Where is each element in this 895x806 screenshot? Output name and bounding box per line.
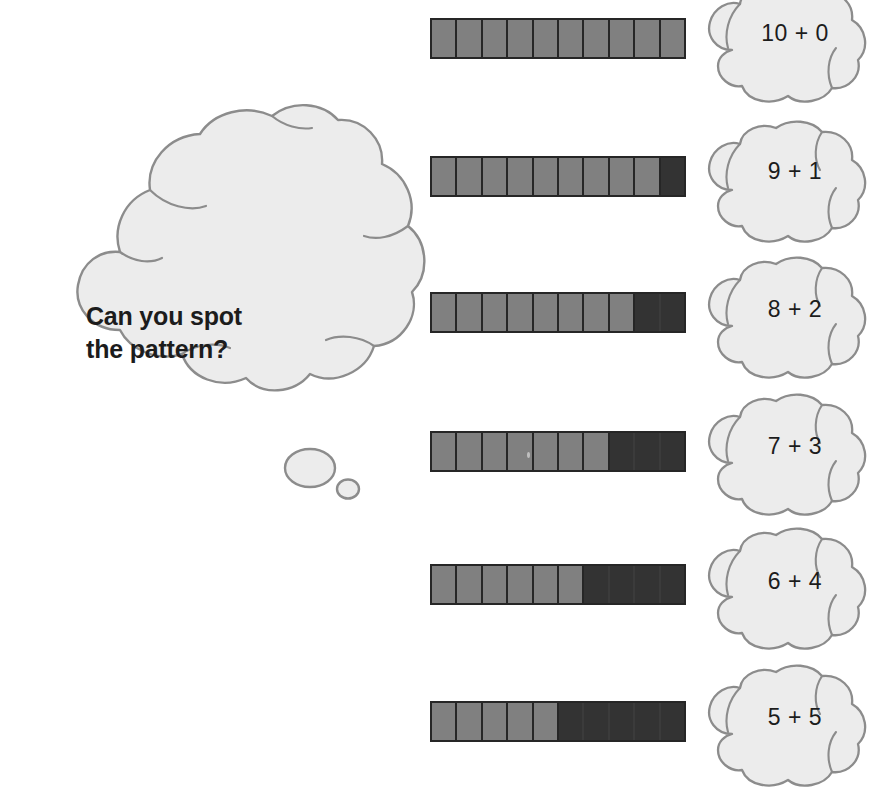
bar-cell-light [508,703,533,740]
prompt-tail-bubble-large [285,449,335,487]
bar-cell-light [584,20,609,57]
bar-cell-dark [635,433,660,470]
bar-row [430,156,686,197]
bar-cell-light [457,294,482,331]
bar-cell-dark [661,294,684,331]
bubble-label: 7 + 3 [740,433,850,460]
bar-cell-light [432,294,457,331]
bar-cell-light [457,703,482,740]
bar-cell-light [457,566,482,603]
bar-cell-light [508,158,533,195]
bar-cell-light [457,433,482,470]
bar-cell-light [534,158,559,195]
bar-cell-light [483,703,508,740]
bar-cell-light [635,158,660,195]
bar-cell-light [432,703,457,740]
bar-cell-light [432,158,457,195]
bar-cell-dark [610,703,635,740]
bar-cell-light [584,158,609,195]
bar-cell-dark [584,703,609,740]
bar-cell-light [483,20,508,57]
bar-cell-light [508,566,533,603]
bar-row [430,292,686,333]
bar-row [430,18,686,59]
bar-cell-light [559,20,584,57]
bar-row [430,564,686,605]
bar-cell-light [483,158,508,195]
bar-row [430,701,686,742]
bar-cell-light [457,20,482,57]
bar-cell-light [534,433,559,470]
bar-row [430,431,686,472]
bar-cell-light [508,433,533,470]
bar-cell-dark [661,703,684,740]
bar-cell-light [584,294,609,331]
bar-cell-dark [584,566,609,603]
bar-cell-light [534,294,559,331]
bubble-label: 6 + 4 [740,568,850,595]
bar-cell-light [432,433,457,470]
bar-cell-light [457,158,482,195]
prompt-tail-bubble-small [337,480,359,499]
bar-cell-light [559,433,584,470]
bar-cell-light [508,20,533,57]
bubble-label: 10 + 0 [740,20,850,47]
bar-cell-light [534,566,559,603]
bar-cell-dark [661,566,684,603]
bar-cell-light [635,20,660,57]
bar-cell-light [559,158,584,195]
bar-cell-light [534,703,559,740]
bar-cell-dark [635,294,660,331]
bar-cell-light [559,566,584,603]
bar-cell-light [483,294,508,331]
bar-cell-light [559,294,584,331]
bar-cell-light [610,294,635,331]
prompt-text: Can you spot the pattern? [86,300,316,367]
scan-artifact-speck [527,452,530,458]
bubble-label: 5 + 5 [740,704,850,731]
bar-cell-dark [559,703,584,740]
bar-cell-light [483,566,508,603]
bar-cell-light [534,20,559,57]
math-bubble-0 [709,0,865,102]
bar-cell-light [483,433,508,470]
math-bubble-group [709,0,865,786]
bar-cell-light [584,433,609,470]
bar-cell-dark [610,433,635,470]
bar-cell-dark [661,158,684,195]
bar-cell-light [661,20,684,57]
bar-cell-light [432,566,457,603]
bar-cell-dark [635,566,660,603]
bar-cell-light [508,294,533,331]
bar-cell-dark [610,566,635,603]
bar-cell-light [610,158,635,195]
bar-cell-dark [661,433,684,470]
bar-cell-light [432,20,457,57]
illustration-canvas [0,0,895,806]
bar-cell-dark [635,703,660,740]
bubble-label: 9 + 1 [740,158,850,185]
bubble-label: 8 + 2 [740,296,850,323]
bar-cell-light [610,20,635,57]
